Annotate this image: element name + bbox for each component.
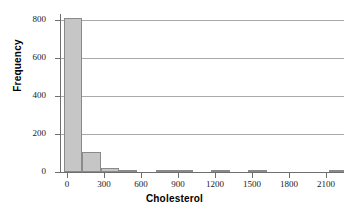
histogram-bar bbox=[64, 18, 82, 172]
x-axis-line bbox=[60, 172, 344, 173]
x-tick-mark bbox=[252, 173, 253, 178]
histogram-bar bbox=[174, 170, 192, 172]
x-tick-mark bbox=[67, 173, 68, 178]
y-tick-label: 800 bbox=[0, 15, 46, 24]
x-tick-label: 600 bbox=[121, 179, 161, 189]
x-axis-title: Cholesterol bbox=[0, 193, 349, 204]
y-tick-label: 400 bbox=[0, 91, 46, 100]
x-tick-mark bbox=[215, 173, 216, 178]
y-tick-mark bbox=[55, 172, 60, 173]
y-tick-label: 600 bbox=[0, 53, 46, 62]
plot-area bbox=[60, 14, 344, 172]
x-tick-mark bbox=[141, 173, 142, 178]
y-tick-label: 0 bbox=[0, 167, 46, 176]
x-tick-label: 300 bbox=[84, 179, 124, 189]
x-tick-mark bbox=[326, 173, 327, 178]
histogram-bar bbox=[211, 170, 229, 172]
x-tick-mark bbox=[289, 173, 290, 178]
histogram-bar bbox=[119, 170, 137, 172]
histogram-bar bbox=[101, 168, 119, 172]
histogram-bar bbox=[329, 170, 344, 172]
histogram-bar bbox=[156, 170, 174, 172]
y-tick-label: 200 bbox=[0, 129, 46, 138]
histogram-chart: 0200400600800 03006009001200150018002100… bbox=[0, 0, 349, 215]
x-tick-mark bbox=[178, 173, 179, 178]
histogram-bar bbox=[248, 170, 266, 172]
y-axis-title: Frequency bbox=[12, 21, 23, 111]
x-tick-label: 0 bbox=[47, 179, 87, 189]
histogram-bar bbox=[82, 152, 100, 172]
x-tick-label: 2100 bbox=[306, 179, 346, 189]
x-tick-label: 1200 bbox=[195, 179, 235, 189]
x-tick-label: 1800 bbox=[269, 179, 309, 189]
x-tick-label: 900 bbox=[158, 179, 198, 189]
x-tick-label: 1500 bbox=[232, 179, 272, 189]
x-tick-mark bbox=[104, 173, 105, 178]
